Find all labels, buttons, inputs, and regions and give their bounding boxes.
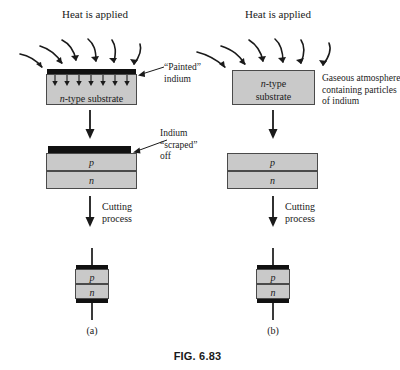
panel-b-cutting-note: Cutting process (285, 201, 315, 224)
panel-b-n-layer-label: n (228, 175, 317, 186)
panel-a-scrape-note: Indium “scraped” off (160, 128, 197, 163)
panel-a-chip-p-layer: p (75, 269, 109, 284)
panel-b-atmosphere-note: Gaseous atmosphere containing particles … (322, 73, 400, 108)
panel-b-substrate-block: n-type substrate (232, 70, 315, 105)
panel-b-chip-n-label: n (257, 286, 289, 297)
panel-a-diffusion-arrows (46, 74, 137, 88)
panel-b-chip-n-layer: n (256, 284, 290, 299)
panel-a-letter: (a) (72, 325, 112, 336)
panel-a-chip-n-label: n (76, 286, 108, 297)
panel-a-cutting-arrow (84, 196, 98, 228)
panel-b-heat-arrows (195, 22, 395, 72)
panel-b-n-layer: n (227, 171, 318, 189)
panel-b-substrate-label-line1: n-type (233, 78, 314, 89)
panel-b-heat-label: Heat is applied (213, 8, 343, 20)
panel-a-p-layer-label: p (47, 157, 136, 168)
panel-a: Heat is applied n-ty (0, 0, 200, 340)
panel-b-chip-p-label: p (257, 271, 289, 282)
panel-a-chip-bottom-contact (76, 299, 108, 303)
panel-b-substrate-label-line2: substrate (233, 91, 314, 102)
panel-b-letter: (b) (253, 325, 293, 336)
panel-a-substrate-label: n-type substrate (47, 93, 136, 104)
figure-caption: FIG. 6.83 (0, 350, 395, 362)
panel-b-cutting-arrow (267, 196, 281, 228)
panel-a-p-layer: p (46, 153, 137, 171)
panel-a-scraped-indium-layer (48, 146, 131, 153)
panel-b-p-layer: p (227, 153, 318, 171)
panel-b: Heat is applied n-type substra (195, 0, 395, 340)
panel-b-chip-p-layer: p (256, 269, 290, 284)
panel-a-n-layer-label: n (47, 175, 136, 186)
panel-a-chip-n-layer: n (75, 284, 109, 299)
panel-b-p-layer-label: p (228, 157, 317, 168)
panel-a-step-arrow-1 (84, 110, 98, 140)
panel-a-chip-p-label: p (76, 271, 108, 282)
panel-a-indium-leader-line (136, 66, 166, 80)
panel-b-chip-bottom-contact (257, 299, 289, 303)
panel-b-step-arrow-1 (267, 110, 281, 140)
panel-a-heat-label: Heat is applied (30, 8, 160, 20)
panel-a-cutting-note: Cutting process (102, 201, 132, 224)
panel-a-n-layer: n (46, 171, 137, 189)
